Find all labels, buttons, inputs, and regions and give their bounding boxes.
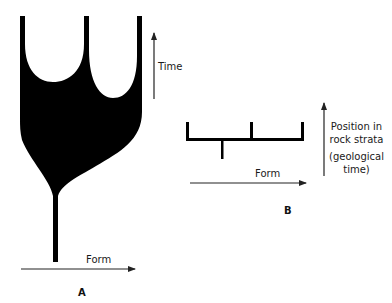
spindle-shape-a xyxy=(20,16,142,262)
panel-label-b: B xyxy=(284,205,292,216)
position-label-line-5: time) xyxy=(329,164,384,177)
position-label-line-2: rock strata xyxy=(329,134,384,147)
position-label: Position in rock strata (geological time… xyxy=(329,121,384,176)
position-label-line-1: Position in xyxy=(329,121,384,134)
form-label-a: Form xyxy=(86,254,111,267)
panel-label-a: A xyxy=(78,287,86,298)
form-label-b: Form xyxy=(255,168,280,181)
bracket-shape-b xyxy=(186,122,304,159)
position-label-line-4: (geological xyxy=(329,151,384,164)
time-label: Time xyxy=(158,61,182,74)
